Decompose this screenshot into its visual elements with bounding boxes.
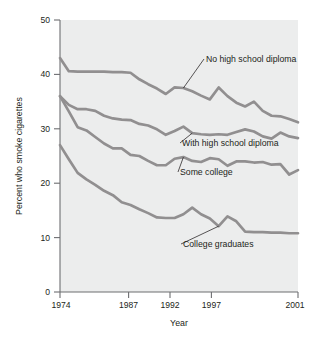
- chart-figure: 50 40 30 20 10 0 Percent who smoke cigar…: [0, 0, 328, 340]
- x-tick-label: 1974: [51, 300, 70, 310]
- x-axis: 1974 1987 1992 1997 2001 Year: [51, 292, 304, 328]
- x-tick-label: 1997: [202, 300, 221, 310]
- x-tick-label: 2001: [285, 300, 304, 310]
- line-chart-svg: 50 40 30 20 10 0 Percent who smoke cigar…: [0, 0, 328, 340]
- y-tick-label: 40: [40, 69, 50, 79]
- x-axis-ticks: [60, 292, 298, 298]
- y-tick-label: 30: [40, 124, 50, 134]
- y-axis-tick-labels: 50 40 30 20 10 0: [40, 15, 50, 297]
- y-tick-label: 50: [40, 15, 50, 25]
- y-tick-label: 0: [45, 287, 50, 297]
- y-tick-label: 20: [40, 178, 50, 188]
- y-axis-ticks: [54, 20, 60, 292]
- annotation-label: With high school diploma: [182, 138, 279, 148]
- y-tick-label: 10: [40, 233, 50, 243]
- y-axis: 50 40 30 20 10 0 Percent who smoke cigar…: [14, 15, 60, 297]
- x-axis-title: Year: [170, 318, 188, 328]
- annotation-label: No high school diploma: [206, 54, 296, 64]
- annotation-label: College graduates: [183, 239, 254, 249]
- x-axis-tick-labels: 1974 1987 1992 1997 2001: [51, 300, 304, 310]
- x-tick-label: 1992: [160, 300, 179, 310]
- y-axis-title: Percent who smoke cigarettes: [14, 96, 24, 214]
- annotation-label: Some college: [180, 167, 233, 177]
- x-tick-label: 1987: [119, 300, 138, 310]
